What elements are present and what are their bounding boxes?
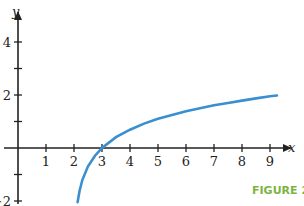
x-tick-label: 7	[210, 154, 218, 169]
axes	[4, 12, 291, 204]
y-tick-label: 2	[3, 88, 11, 103]
x-tick-label: 9	[266, 154, 274, 169]
tick-labels: 123456789−224	[0, 35, 274, 206]
y-tick-label: 4	[3, 35, 11, 50]
ticks	[14, 42, 270, 201]
chart: 123456789−224 x y	[0, 0, 304, 206]
y-axis-label: y	[11, 4, 20, 19]
figure-caption: FIGURE 2.50.	[252, 184, 304, 197]
x-tick-label: 2	[70, 154, 78, 169]
y-tick-label: −2	[0, 194, 11, 206]
x-tick-label: 1	[42, 154, 50, 169]
x-tick-label: 6	[182, 154, 190, 169]
x-tick-label: 4	[126, 154, 134, 169]
x-tick-label: 5	[154, 154, 162, 169]
x-tick-label: 3	[98, 154, 106, 169]
x-axis-label: x	[288, 140, 296, 155]
x-tick-label: 8	[238, 154, 246, 169]
